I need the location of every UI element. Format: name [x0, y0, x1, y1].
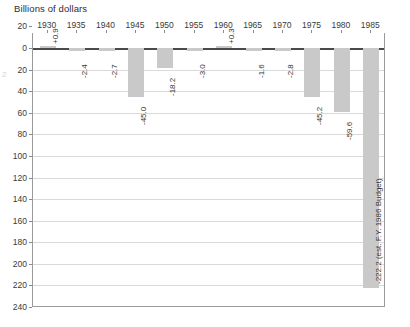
gridline: [33, 91, 384, 92]
y-tick-label: 120: [13, 174, 27, 183]
x-tick-label: 1945: [125, 20, 144, 30]
y-tick-label: 80: [18, 130, 27, 139]
x-tick-mark: [311, 30, 312, 33]
x-tick-label: 1970: [273, 20, 292, 30]
x-tick-mark: [370, 30, 371, 33]
x-tick-label: 1950: [155, 20, 174, 30]
bar: [99, 48, 115, 51]
bar: [275, 48, 291, 51]
bar-value-label: -1.6: [258, 64, 266, 78]
gridline: [33, 134, 384, 135]
y-tick-label: 180: [13, 238, 27, 247]
y-tick-label: 20: [18, 66, 27, 75]
bar: [128, 48, 144, 97]
y-tick-mark: [29, 307, 32, 308]
bar-value-label: -2.7: [111, 64, 119, 78]
x-tick-mark: [135, 30, 136, 33]
x-tick-mark: [223, 30, 224, 33]
x-tick-label: 1940: [96, 20, 115, 30]
y-tick-label: 160: [13, 217, 27, 226]
x-tick-mark: [164, 30, 165, 33]
y-tick-label: 240: [13, 303, 27, 312]
bar-value-label: -2.4: [81, 64, 89, 78]
bar-value-label: +0.3: [228, 28, 236, 44]
y-tick-label: 220: [13, 281, 27, 290]
bar: [216, 46, 232, 49]
bar: [246, 48, 262, 51]
bar: [69, 48, 85, 51]
bar-value-label: -2.8: [287, 64, 295, 78]
bar: [187, 48, 203, 51]
zero-axis-line: [33, 48, 384, 50]
gridline: [33, 242, 384, 243]
y-tick-label: 60: [18, 109, 27, 118]
y-tick-label: 0: [22, 44, 27, 53]
bar: [334, 48, 350, 112]
x-tick-label: 1975: [302, 20, 321, 30]
gridline: [33, 178, 384, 179]
x-tick-label: 1960: [214, 20, 233, 30]
x-tick-mark: [76, 30, 77, 33]
x-tick-label: 1955: [184, 20, 203, 30]
x-tick-label: 1985: [361, 20, 380, 30]
gridline: [33, 156, 384, 157]
bar: [40, 46, 56, 49]
x-tick-mark: [253, 30, 254, 33]
x-tick-label: 1965: [243, 20, 262, 30]
x-tick-label: 1935: [67, 20, 86, 30]
bar: [304, 48, 320, 97]
plot-area: +0.9-2.4-2.7-45.0-18.2-3.0+0.3-1.6-2.8-4…: [32, 33, 385, 307]
chart-root: Billions of dollars 2 200204060801001201…: [0, 0, 410, 327]
gridline: [33, 113, 384, 114]
x-tick-mark: [282, 30, 283, 33]
x-tick-label: 1980: [331, 20, 350, 30]
y-tick-label: 200: [13, 260, 27, 269]
y-tick-label: 20: [18, 22, 27, 31]
x-tick-mark: [194, 30, 195, 33]
y-tick-mark: [29, 26, 32, 27]
bar-value-label: -222.2 (est. F.Y. 1986 Budget): [375, 178, 383, 284]
gridline: [33, 264, 384, 265]
x-tick-mark: [341, 30, 342, 33]
gridline: [33, 221, 384, 222]
x-tick-mark: [106, 30, 107, 33]
bar-value-label: -45.2: [316, 107, 324, 125]
bar: [157, 48, 173, 68]
y-tick-label: 100: [13, 152, 27, 161]
bar-value-label: -59.6: [346, 122, 354, 140]
gridline: [33, 199, 384, 200]
gridline: [33, 285, 384, 286]
bar-value-label: +0.9: [52, 28, 60, 44]
bar-value-label: -3.0: [199, 64, 207, 78]
bar-value-label: -45.0: [140, 106, 148, 124]
y-tick-label: 140: [13, 195, 27, 204]
x-tick-label: 1930: [37, 20, 56, 30]
y-tick-label: 40: [18, 87, 27, 96]
x-tick-mark: [47, 30, 48, 33]
bar-value-label: -18.2: [169, 77, 177, 95]
